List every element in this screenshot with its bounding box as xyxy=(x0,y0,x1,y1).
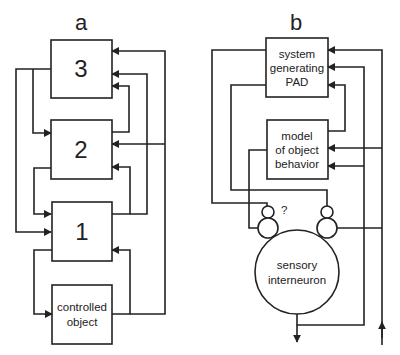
connector-1-to-object xyxy=(34,250,52,314)
model-label-line2: of object xyxy=(275,144,319,156)
panel-a: a 3 2 1 controlled object xyxy=(16,10,165,344)
diagram-canvas: a 3 2 1 controlled object b xyxy=(0,0,400,355)
connector-3-to-2 xyxy=(33,69,51,133)
feedback-object-to-1 xyxy=(112,250,130,314)
connector-2-to-1 xyxy=(34,168,51,214)
panel-a-label: a xyxy=(75,10,88,35)
panel-b: b system generating PAD model of object … xyxy=(212,10,382,345)
panel-b-label: b xyxy=(290,10,302,35)
box-level-1-label: 1 xyxy=(75,218,88,245)
pad-output-to-left-synapse xyxy=(212,50,267,206)
box-controlled-object xyxy=(52,285,112,344)
pad-label-line2: generating xyxy=(270,62,324,74)
right-presynaptic-small xyxy=(321,206,333,218)
pad-label-line3: PAD xyxy=(286,76,309,88)
neuron-label-line1: sensory xyxy=(277,259,318,271)
pad-label-line1: system xyxy=(279,48,315,60)
neuron-label-line2: interneuron xyxy=(268,274,326,286)
right-presynaptic-large xyxy=(317,218,337,238)
model-to-pad-connector xyxy=(328,85,345,131)
model-label-line3: behavior xyxy=(275,158,319,170)
model-label-line1: model xyxy=(281,130,312,142)
feedback-object-to-3 xyxy=(112,51,165,314)
input-line-to-pad xyxy=(328,50,382,345)
controlled-object-label-line2: object xyxy=(67,316,98,328)
left-presynaptic-large xyxy=(258,218,278,238)
box-level-2-label: 2 xyxy=(74,136,87,163)
controlled-object-label-line1: controlled xyxy=(57,301,107,313)
feedback-1-to-2 xyxy=(112,167,130,214)
left-presynaptic-small xyxy=(262,206,274,218)
box-level-3-label: 3 xyxy=(74,55,87,82)
feedback-2-to-3 xyxy=(112,86,129,132)
question-mark: ? xyxy=(281,204,287,216)
sensory-interneuron xyxy=(255,230,339,314)
